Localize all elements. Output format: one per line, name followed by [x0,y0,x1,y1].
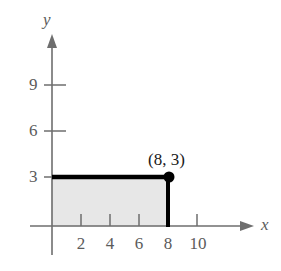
x-axis-arrowhead [240,221,254,231]
y-tick-label-6: 6 [29,121,38,141]
x-tick-label-4: 4 [106,234,115,254]
y-tick-label-3: 3 [29,167,38,187]
y-axis-label: y [43,10,51,30]
x-axis-label: x [261,215,269,235]
x-tick-label-10: 10 [190,234,207,254]
y-tick-label-9: 9 [29,75,38,95]
figure-container: y x 9 6 3 2 4 6 8 10 (8, 3) [0,0,281,271]
x-tick-label-2: 2 [77,234,86,254]
coordinate-plane-plot [0,0,281,271]
x-tick-label-6: 6 [135,234,144,254]
x-tick-label-8: 8 [164,234,173,254]
y-axis-arrowhead [47,34,57,48]
point-annotation-label: (8, 3) [148,150,185,170]
data-point-marker [164,172,175,183]
